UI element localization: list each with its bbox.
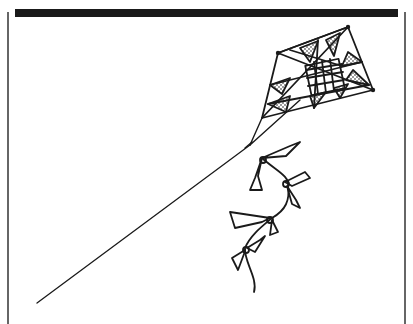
top-bar [15, 9, 398, 17]
kite-string [37, 145, 250, 303]
kite-tail [230, 142, 310, 292]
kite-body [262, 27, 373, 118]
kite-illustration [0, 0, 413, 324]
